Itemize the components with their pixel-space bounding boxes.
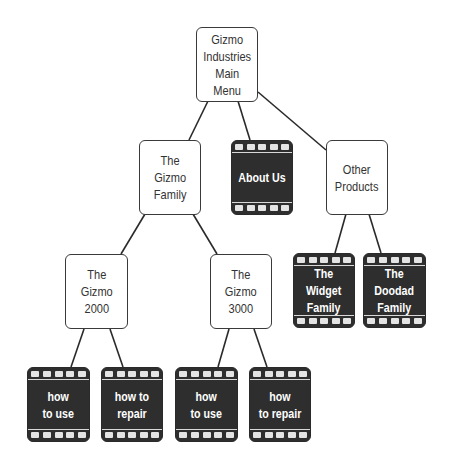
edge-3000-how-to-repair [254,329,267,367]
edge-2000-how-to-use [71,329,84,367]
film-sprocket-icon [296,257,352,263]
film-sprocket-icon [366,257,423,263]
node-doodad-family: The Doodad Family [363,253,426,328]
node-label: About Us [238,169,285,186]
node-label: Gizmo Industries Main Menu [203,31,251,99]
node-2000-how-to-use: how to use [27,367,90,442]
node-label: The Widget Family [306,265,341,316]
node-main-menu: Gizmo Industries Main Menu [196,27,258,102]
edge-3000-how-to-use [218,329,229,367]
film-sprocket-icon [234,144,290,150]
edge-other-doodad [369,214,381,253]
edge-root-gizmo-family [189,101,208,140]
node-label: The Doodad Family [375,265,415,316]
node-label: The Gizmo Family [154,152,187,203]
node-3000-how-to-repair: how to repair [249,367,311,442]
film-sprocket-icon [252,432,308,438]
node-label: The Gizmo 2000 [81,266,113,317]
node-gizmo-2000: The Gizmo 2000 [65,254,128,329]
edge-gizmo-family-3000 [193,214,217,254]
node-widget-family: The Widget Family [293,253,355,328]
film-sprocket-icon [30,432,87,438]
node-about-us: About Us [231,140,293,215]
node-2000-how-to-repair: how to repair [101,367,163,442]
edge-other-widget [335,214,346,253]
film-sprocket-icon [234,205,290,211]
site-map-diagram: Gizmo Industries Main Menu The Gizmo Fam… [0,0,449,461]
film-sprocket-icon [178,371,235,377]
film-sprocket-icon [104,432,160,438]
film-sprocket-icon [366,318,423,324]
node-label: how to repair [259,388,302,422]
film-sprocket-icon [178,432,235,438]
node-other-products: Other Products [326,140,388,215]
node-label: Other Products [335,161,379,195]
node-label: how to repair [115,388,149,422]
node-label: The Gizmo 3000 [225,266,257,317]
edge-root-about-us [238,101,250,140]
film-sprocket-icon [30,371,87,377]
film-sprocket-icon [296,318,352,324]
edge-2000-how-to-repair [110,329,123,367]
node-label: how to use [191,388,222,422]
film-sprocket-icon [104,371,160,377]
node-gizmo-3000: The Gizmo 3000 [210,254,272,329]
edge-gizmo-family-2000 [121,214,145,254]
film-sprocket-icon [252,371,308,377]
node-label: how to use [43,388,74,422]
node-3000-how-to-use: how to use [175,367,238,442]
node-gizmo-family: The Gizmo Family [139,140,201,215]
